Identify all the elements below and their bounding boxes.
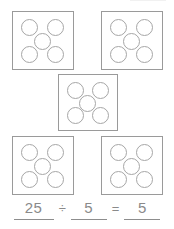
circle-top-left (21, 144, 38, 161)
circle-top-right (136, 144, 153, 161)
circle-bottom-left (21, 171, 38, 188)
division-equation: 25 ÷ 5 = 5 (0, 198, 174, 226)
group-box-4 (12, 136, 74, 195)
group-box-2 (101, 11, 163, 70)
circle-bottom-left (67, 107, 84, 124)
group-box-1 (12, 11, 74, 70)
equals-symbol: = (111, 199, 121, 218)
circle-bottom-left (21, 46, 38, 63)
circle-center (34, 33, 51, 50)
circle-top-right (47, 144, 64, 161)
circle-bottom-right (136, 171, 153, 188)
quotient-blank[interactable]: 5 (124, 198, 160, 220)
circle-bottom-left (110, 171, 127, 188)
dividend-blank[interactable]: 25 (14, 198, 54, 220)
circle-bottom-right (92, 107, 109, 124)
circle-top-left (110, 19, 127, 36)
circle-center (34, 158, 51, 175)
circle-center (123, 33, 140, 50)
circle-top-left (110, 144, 127, 161)
circle-top-right (92, 82, 109, 99)
circle-top-left (21, 19, 38, 36)
circle-bottom-left (110, 46, 127, 63)
circle-bottom-right (136, 46, 153, 63)
cropped-edge-artifact (130, 0, 166, 4)
group-box-5 (101, 136, 163, 195)
circle-top-right (136, 19, 153, 36)
circle-center (123, 158, 140, 175)
divide-symbol: ÷ (58, 199, 67, 218)
division-worksheet: 25 ÷ 5 = 5 (0, 0, 174, 229)
circle-bottom-right (47, 171, 64, 188)
divisor-blank[interactable]: 5 (71, 198, 107, 220)
circle-bottom-right (47, 46, 64, 63)
group-box-3 (58, 74, 118, 131)
circle-top-right (47, 19, 64, 36)
